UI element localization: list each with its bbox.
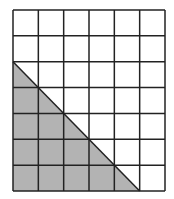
grid-diagram [0, 0, 174, 199]
